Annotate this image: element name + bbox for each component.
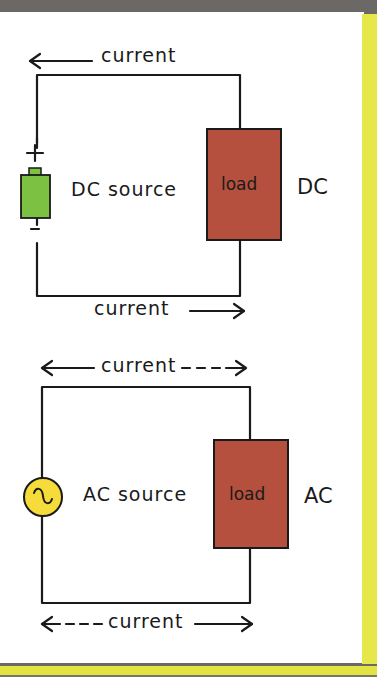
battery-icon (21, 168, 50, 218)
ac-bottom-current-label: current (108, 610, 184, 632)
circuit-drawing (0, 0, 377, 677)
ac-type-label: AC (304, 484, 333, 508)
dc-type-label: DC (297, 175, 328, 199)
ac-source-icon (24, 478, 62, 516)
dc-top-current-label: current (101, 44, 177, 66)
dc-top-arrow-left-icon (30, 54, 92, 68)
plus-sign-icon (27, 145, 43, 161)
ac-top-current-label: current (101, 354, 177, 376)
ac-load-label: load (229, 484, 265, 504)
dc-load-label: load (221, 174, 257, 194)
dc-bottom-current-label: current (94, 297, 170, 319)
ac-source-label: AC source (83, 483, 187, 505)
dc-bottom-arrow-right-icon (190, 304, 244, 318)
dc-source-label: DC source (71, 178, 177, 200)
